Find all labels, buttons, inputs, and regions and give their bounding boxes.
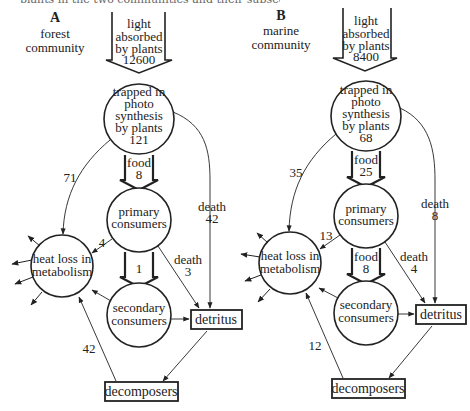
decomposer-respiration-value: 12 [309, 338, 322, 353]
heat-label: metabolism [260, 261, 321, 276]
panel-marine-community: B marine community light absorbed by pla… [241, 8, 466, 398]
panel-letter: A [50, 10, 61, 25]
heat-label: metabolism [32, 264, 93, 279]
light-value: 12600 [123, 52, 156, 67]
secondary-respiration-arrow [319, 288, 338, 298]
producers-value: 68 [360, 130, 373, 145]
food-value: 25 [360, 164, 373, 179]
producer-respiration-arrow [289, 134, 336, 231]
panel-title-line1: marine [263, 23, 299, 38]
decomposer-respiration-value: 42 [83, 341, 96, 356]
death-value: 42 [206, 211, 219, 226]
producers-value: 121 [129, 132, 149, 147]
panel-letter: B [276, 8, 285, 23]
panel-title-line2: community [251, 37, 311, 52]
death-value: 8 [432, 208, 439, 223]
panel-title-line1: forest [40, 26, 70, 41]
detritus-label: detritus [420, 307, 462, 322]
producer-respiration-arrow [63, 140, 110, 234]
food-value: 1 [136, 261, 143, 276]
energy-flow-diagram: A forest community light absorbed by pla… [0, 0, 470, 411]
primary-respiration-value: 13 [320, 228, 333, 243]
detritus-to-decomposers-arrow [389, 326, 432, 378]
primary-respiration-value: 4 [99, 235, 106, 250]
death-value: 3 [185, 264, 192, 279]
food-value: 8 [363, 261, 370, 276]
panel-title-line2: community [25, 40, 85, 55]
decomposers-label: decomposers [331, 381, 404, 396]
primary-label: consumers [111, 216, 167, 231]
primary-label: consumers [338, 213, 394, 228]
detritus-to-decomposers-arrow [163, 331, 207, 381]
light-value: 8400 [353, 49, 379, 64]
death-value: 4 [411, 261, 418, 276]
producer-respiration-value: 71 [64, 170, 77, 185]
food-value: 8 [136, 167, 143, 182]
secondary-label: consumers [111, 313, 167, 328]
detritus-label: detritus [195, 312, 237, 327]
secondary-label: consumers [338, 310, 394, 325]
producer-respiration-value: 35 [290, 165, 303, 180]
panel-forest-community: A forest community light absorbed by pla… [12, 10, 242, 401]
secondary-respiration-arrow [92, 290, 111, 301]
decomposers-label: decomposers [104, 384, 177, 399]
